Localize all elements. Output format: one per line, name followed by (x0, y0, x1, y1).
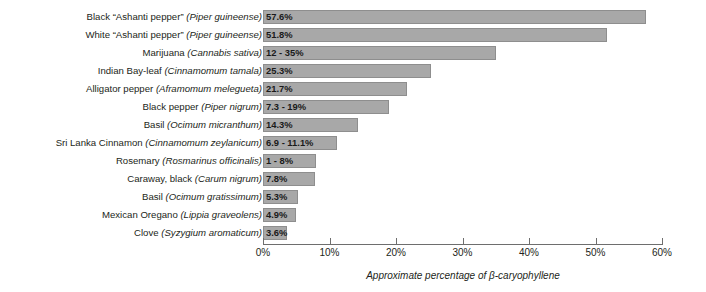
category-latin-name: (Cinnamomum zeylanicum) (145, 137, 262, 148)
category-latin-name: (Syzygium aromaticum) (161, 227, 262, 238)
bar-value-label: 12 - 35% (266, 46, 304, 60)
bar-chart: Black “Ashanti pepper” (Piper guineense)… (0, 0, 706, 292)
x-axis-tick-label: 10% (300, 247, 360, 258)
bar-track: 14.3% (263, 118, 662, 132)
bar-value-label: 51.8% (266, 28, 293, 42)
category-common-name: Mexican Oregano (102, 209, 178, 220)
bar-value-label: 4.9% (266, 208, 287, 222)
x-axis-tick (529, 238, 530, 244)
bar-track: 51.8% (263, 28, 662, 42)
bar-value-label: 5.3% (266, 190, 287, 204)
category-latin-name: (Aframomum melegueta) (156, 83, 262, 94)
bar-value-label: 25.3% (266, 64, 293, 78)
chart-rows: Black “Ashanti pepper” (Piper guineense)… (0, 10, 706, 244)
chart-row: Caraway, black (Carum nigrum)7.8% (0, 172, 706, 190)
category-latin-name: (Ocimum micranthum) (167, 119, 262, 130)
category-latin-name: (Lippia graveolens) (180, 209, 262, 220)
chart-row: Mexican Oregano (Lippia graveolens)4.9% (0, 208, 706, 226)
category-label: Indian Bay-leaf (Cinnamomum tamala) (2, 64, 262, 78)
category-label: Black “Ashanti pepper” (Piper guineense) (2, 10, 262, 24)
category-label: White “Ashanti pepper” (Piper guineense) (2, 28, 262, 42)
chart-row: Basil (Ocimum gratissimum)5.3% (0, 190, 706, 208)
category-label: Basil (Ocimum gratissimum) (2, 190, 262, 204)
category-common-name: Sri Lanka Cinnamon (56, 137, 143, 148)
bar-value-label: 14.3% (266, 118, 293, 132)
bar-value-label: 21.7% (266, 82, 293, 96)
category-label: Mexican Oregano (Lippia graveolens) (2, 208, 262, 222)
x-axis-tick-label: 0% (233, 247, 293, 258)
chart-row: Marijuana (Cannabis sativa)12 - 35% (0, 46, 706, 64)
category-latin-name: (Ocimum gratissimum) (166, 191, 262, 202)
category-common-name: Clove (134, 227, 159, 238)
bar-track: 6.9 - 11.1% (263, 136, 662, 150)
chart-row: Black “Ashanti pepper” (Piper guineense)… (0, 10, 706, 28)
bar (263, 10, 646, 24)
chart-row: Alligator pepper (Aframomum melegueta)21… (0, 82, 706, 100)
chart-row: Black pepper (Piper nigrum)7.3 - 19% (0, 100, 706, 118)
chart-row: Sri Lanka Cinnamon (Cinnamomum zeylanicu… (0, 136, 706, 154)
chart-row: Rosemary (Rosmarinus officinalis)1 - 8% (0, 154, 706, 172)
bar-track: 7.8% (263, 172, 662, 186)
x-axis-line (263, 244, 663, 245)
category-common-name: White “Ashanti pepper” (85, 29, 183, 40)
category-latin-name: (Piper guineense) (186, 29, 262, 40)
bar-track: 1 - 8% (263, 154, 662, 168)
category-label: Caraway, black (Carum nigrum) (2, 172, 262, 186)
category-label: Clove (Syzygium aromaticum) (2, 226, 262, 240)
category-common-name: Marijuana (143, 47, 185, 58)
chart-row: White “Ashanti pepper” (Piper guineense)… (0, 28, 706, 46)
x-axis-tick (263, 238, 264, 244)
category-label: Marijuana (Cannabis sativa) (2, 46, 262, 60)
category-latin-name: (Cinnamomum tamala) (164, 65, 262, 76)
x-axis-tick (596, 238, 597, 244)
bar-value-label: 1 - 8% (266, 154, 293, 168)
x-axis-tick-label: 50% (566, 247, 626, 258)
category-label: Basil (Ocimum micranthum) (2, 118, 262, 132)
bar-track: 5.3% (263, 190, 662, 204)
x-axis-tick (330, 238, 331, 244)
category-latin-name: (Piper guineense) (186, 11, 262, 22)
x-axis-tick (396, 238, 397, 244)
bar-track: 12 - 35% (263, 46, 662, 60)
chart-row: Basil (Ocimum micranthum)14.3% (0, 118, 706, 136)
x-axis-tick (662, 238, 663, 244)
category-latin-name: (Piper nigrum) (201, 101, 262, 112)
bar-value-label: 6.9 - 11.1% (266, 136, 313, 150)
x-axis-tick-label: 40% (499, 247, 559, 258)
category-label: Sri Lanka Cinnamon (Cinnamomum zeylanicu… (2, 136, 262, 150)
bar-value-label: 57.6% (266, 10, 293, 24)
category-common-name: Basil (142, 191, 163, 202)
category-common-name: Black pepper (143, 101, 199, 112)
category-latin-name: (Carum nigrum) (195, 173, 262, 184)
category-label: Rosemary (Rosmarinus officinalis) (2, 154, 262, 168)
category-common-name: Basil (144, 119, 165, 130)
category-latin-name: (Cannabis sativa) (187, 47, 262, 58)
x-axis-tick-label: 60% (632, 247, 692, 258)
category-common-name: Black “Ashanti pepper” (87, 11, 184, 22)
x-axis-tick (463, 238, 464, 244)
chart-row: Clove (Syzygium aromaticum)3.6% (0, 226, 706, 244)
chart-row: Indian Bay-leaf (Cinnamomum tamala)25.3% (0, 64, 706, 82)
x-axis-title: Approximate percentage of β-caryophyllen… (263, 270, 663, 281)
bar-value-label: 7.8% (266, 172, 287, 186)
category-common-name: Indian Bay-leaf (98, 65, 162, 76)
bar-track: 25.3% (263, 64, 662, 78)
bar-track: 21.7% (263, 82, 662, 96)
x-axis-tick-label: 20% (366, 247, 426, 258)
category-latin-name: (Rosmarinus officinalis) (162, 155, 262, 166)
bar (263, 28, 607, 42)
bar-value-label: 3.6% (266, 226, 287, 240)
x-axis-tick-label: 30% (433, 247, 493, 258)
category-common-name: Alligator pepper (86, 83, 153, 94)
bar-value-label: 7.3 - 19% (266, 100, 306, 114)
bar-track: 7.3 - 19% (263, 100, 662, 114)
category-label: Black pepper (Piper nigrum) (2, 100, 262, 114)
bar-track: 57.6% (263, 10, 662, 24)
category-common-name: Caraway, black (127, 173, 192, 184)
bar-track: 4.9% (263, 208, 662, 222)
category-common-name: Rosemary (116, 155, 160, 166)
category-label: Alligator pepper (Aframomum melegueta) (2, 82, 262, 96)
